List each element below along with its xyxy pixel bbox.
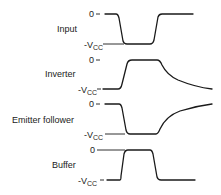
input-waveform xyxy=(105,14,193,44)
trace-label-emitter-follower: Emitter follower xyxy=(12,115,74,125)
neg-vcc-label: -VCC xyxy=(84,40,103,51)
trace-input: Input 0 -VCC xyxy=(57,9,193,51)
trace-emitter-follower: Emitter follower 0 -VCC xyxy=(12,99,212,141)
neg-vcc-label: -VCC xyxy=(78,85,97,96)
inverter-waveform xyxy=(103,60,212,89)
trace-buffer: Buffer 0 -VCC xyxy=(52,145,195,187)
trace-inverter: Inverter 0 -VCC xyxy=(45,55,212,96)
zero-level-label: 0 xyxy=(89,55,94,65)
neg-vcc-label: -VCC xyxy=(84,130,103,141)
zero-level-label: 0 xyxy=(89,9,94,19)
trace-label-inverter: Inverter xyxy=(45,69,76,79)
trace-label-buffer: Buffer xyxy=(52,160,76,170)
emitter-follower-waveform xyxy=(105,104,212,134)
waveform-diagram: Input 0 -VCC Inverter 0 -VCC Emitter fol… xyxy=(0,0,221,195)
buffer-waveform xyxy=(107,150,195,180)
zero-level-label: 0 xyxy=(90,145,95,155)
trace-label-input: Input xyxy=(57,24,78,34)
neg-vcc-label: -VCC xyxy=(78,176,97,187)
zero-level-label: 0 xyxy=(89,99,94,109)
